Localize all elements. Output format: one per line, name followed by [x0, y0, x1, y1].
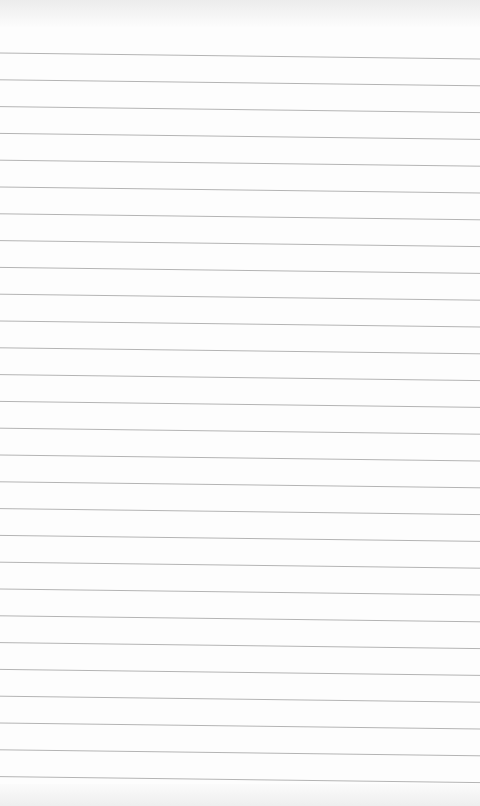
ruled-line	[0, 294, 480, 300]
ruled-line	[0, 107, 480, 113]
lined-paper-sheet	[0, 0, 480, 806]
ruled-line	[0, 482, 480, 488]
ruled-line	[0, 53, 480, 59]
ruled-line	[0, 267, 480, 273]
ruled-line	[0, 80, 480, 86]
ruled-line	[0, 750, 480, 756]
ruled-line	[0, 589, 480, 595]
ruled-line	[0, 133, 480, 139]
ruled-line	[0, 401, 480, 407]
ruled-line	[0, 241, 480, 247]
ruled-line	[0, 616, 480, 622]
ruled-line	[0, 562, 480, 568]
ruled-line	[0, 214, 480, 220]
ruled-lines	[0, 0, 480, 806]
ruled-line	[0, 187, 480, 193]
ruled-line	[0, 643, 480, 649]
ruled-line	[0, 375, 480, 381]
ruled-line	[0, 723, 480, 729]
ruled-line	[0, 321, 480, 327]
ruled-line	[0, 535, 480, 541]
paper-bottom-edge	[0, 784, 480, 806]
ruled-line	[0, 669, 480, 675]
ruled-line	[0, 428, 480, 434]
ruled-line	[0, 455, 480, 461]
ruled-line	[0, 777, 480, 783]
ruled-line	[0, 696, 480, 702]
ruled-line	[0, 348, 480, 354]
ruled-line	[0, 509, 480, 515]
ruled-line	[0, 160, 480, 166]
